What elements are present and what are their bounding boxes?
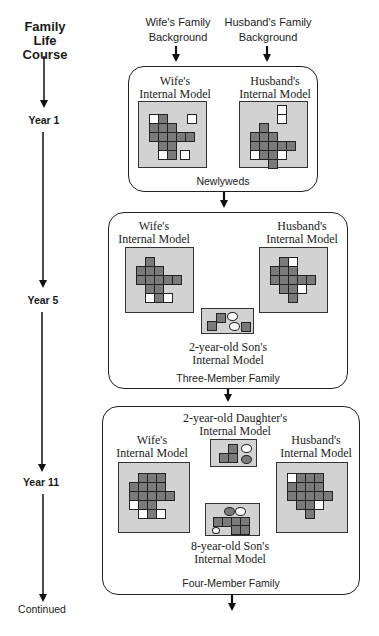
three-wife-model xyxy=(125,247,194,313)
four-wife-label: Wife's Internal Model xyxy=(112,434,192,460)
square-shape xyxy=(228,453,238,463)
label-line: Internal Model xyxy=(262,233,342,246)
wife-background-line: Wife's Family xyxy=(128,15,228,30)
model-cell xyxy=(268,159,278,169)
circle-shape xyxy=(224,507,235,516)
three-husband-model xyxy=(259,247,328,313)
square-shape xyxy=(216,313,226,323)
square-shape xyxy=(228,444,238,454)
model-cell xyxy=(286,141,296,151)
square-shape xyxy=(241,322,251,332)
newlyweds-husband-label: Husband's Internal Model xyxy=(235,75,315,101)
three-son-model xyxy=(201,308,254,334)
square-shape xyxy=(240,525,250,535)
model-cell xyxy=(288,293,298,303)
circle-shape xyxy=(235,507,246,516)
circle-shape xyxy=(229,322,240,331)
newlyweds-wife-model xyxy=(138,101,207,168)
timeline-year-11: Year 11 xyxy=(9,476,73,488)
four-daughter-label: 2-year-old Daughter's Internal Model xyxy=(180,412,290,438)
four-wife-model xyxy=(118,462,190,533)
newlyweds-husband-model xyxy=(239,101,308,168)
stage-name-three-member: Three-Member Family xyxy=(108,372,348,384)
timeline-title-line: Course xyxy=(12,48,78,62)
newlyweds-wife-label: Wife's Internal Model xyxy=(135,75,215,101)
four-daughter-model xyxy=(210,439,257,467)
four-husband-label: Husband's Internal Model xyxy=(276,434,356,460)
circle-shape xyxy=(241,444,252,453)
label-line: Internal Model xyxy=(235,88,315,101)
small-circle-shape xyxy=(212,527,220,534)
model-cell xyxy=(314,500,324,510)
label-line: Internal Model xyxy=(112,447,192,460)
four-husband-model xyxy=(276,462,348,533)
timeline-title: Family Life Course xyxy=(12,20,78,62)
stage-name-four-member: Four-Member Family xyxy=(102,577,360,589)
model-cell xyxy=(306,275,316,285)
model-cell xyxy=(167,150,177,160)
wife-background-line: Background xyxy=(128,30,228,45)
timeline-continued: Continued xyxy=(6,603,78,615)
three-son-label: 2-year-old Son's Internal Model xyxy=(178,341,278,367)
label-line: Internal Model xyxy=(180,553,280,566)
label-line: Internal Model xyxy=(135,88,215,101)
model-cell xyxy=(187,114,197,124)
timeline-title-line: Life xyxy=(12,34,78,48)
three-husband-label: Husband's Internal Model xyxy=(262,220,342,246)
square-shape xyxy=(207,321,217,331)
wife-family-background: Wife's Family Background xyxy=(128,15,228,45)
model-cell xyxy=(163,293,173,303)
four-son-model xyxy=(205,503,260,536)
timeline-year-1: Year 1 xyxy=(12,114,76,126)
circle-shape xyxy=(241,455,252,464)
husband-family-background: Husband's Family Background xyxy=(218,15,318,45)
husband-background-line: Husband's Family xyxy=(218,15,318,30)
label-line: Internal Model xyxy=(180,425,290,438)
model-cell xyxy=(305,509,315,519)
stage-name-newlyweds: Newlyweds xyxy=(128,175,318,187)
model-cell xyxy=(297,284,307,294)
label-line: Internal Model xyxy=(114,233,194,246)
model-cell xyxy=(185,132,195,142)
model-cell xyxy=(165,491,175,501)
model-cell xyxy=(277,150,287,160)
four-son-label: 8-year-old Son's Internal Model xyxy=(180,540,280,566)
circle-shape xyxy=(227,312,238,321)
model-cell xyxy=(180,150,190,160)
model-cell xyxy=(277,114,287,124)
timeline-title-line: Family xyxy=(12,20,78,34)
model-cell xyxy=(156,509,166,519)
timeline-year-5: Year 5 xyxy=(11,294,75,306)
model-cell xyxy=(323,491,333,501)
husband-background-line: Background xyxy=(218,30,318,45)
label-line: Internal Model xyxy=(178,354,278,367)
model-cell xyxy=(172,275,182,285)
label-line: Internal Model xyxy=(276,447,356,460)
three-wife-label: Wife's Internal Model xyxy=(114,220,194,246)
